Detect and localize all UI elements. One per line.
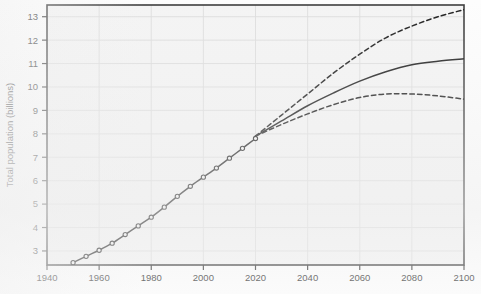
chart-canvas: 345678910111213 194019601980200020202040… bbox=[0, 0, 481, 294]
x-tick-label: 2060 bbox=[349, 272, 370, 283]
y-tick-label: 13 bbox=[27, 11, 38, 22]
data-point-marker bbox=[175, 194, 179, 198]
y-axis-title: Total population (billions) bbox=[4, 83, 15, 188]
x-tick-label: 2020 bbox=[245, 272, 266, 283]
x-tick-label: 2000 bbox=[193, 272, 214, 283]
y-tick-label: 8 bbox=[33, 128, 38, 139]
y-tick-label: 3 bbox=[33, 245, 38, 256]
data-point-marker bbox=[253, 136, 257, 140]
data-point-marker bbox=[201, 175, 205, 179]
data-point-marker bbox=[136, 224, 140, 228]
data-point-marker bbox=[214, 166, 218, 170]
x-tick-label: 1980 bbox=[141, 272, 162, 283]
y-tick-label: 11 bbox=[28, 58, 38, 69]
y-tick-label: 4 bbox=[33, 222, 38, 233]
data-point-marker bbox=[97, 248, 101, 252]
x-tick-label: 2080 bbox=[401, 272, 422, 283]
y-tick-label: 9 bbox=[33, 105, 38, 116]
data-point-marker bbox=[162, 205, 166, 209]
data-point-marker bbox=[227, 156, 231, 160]
x-tick-label: 2040 bbox=[297, 272, 318, 283]
x-tick-label: 1960 bbox=[89, 272, 110, 283]
y-tick-label: 10 bbox=[27, 81, 38, 92]
y-tick-label: 6 bbox=[33, 175, 38, 186]
y-axis-tick-labels: 345678910111213 bbox=[27, 11, 38, 256]
data-point-marker bbox=[71, 261, 75, 265]
y-tick-label: 5 bbox=[33, 198, 38, 209]
data-point-marker bbox=[110, 241, 114, 245]
x-axis-tick-labels: 194019601980200020202040206020802100 bbox=[36, 272, 474, 283]
data-point-marker bbox=[188, 184, 192, 188]
x-tick-label: 1940 bbox=[36, 272, 57, 283]
y-tick-label: 12 bbox=[27, 35, 38, 46]
data-point-marker bbox=[149, 215, 153, 219]
data-point-marker bbox=[240, 146, 244, 150]
y-tick-label: 7 bbox=[33, 152, 38, 163]
x-tick-label: 2100 bbox=[453, 272, 474, 283]
data-point-marker bbox=[84, 254, 88, 258]
population-projection-figure: 345678910111213 194019601980200020202040… bbox=[0, 0, 481, 294]
data-point-marker bbox=[123, 232, 127, 236]
